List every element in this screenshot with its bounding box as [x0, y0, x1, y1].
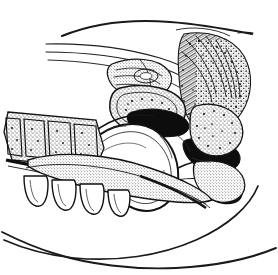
anatomical-figure	[0, 0, 278, 275]
engraving-plate: FIG. 24.	[0, 0, 278, 275]
